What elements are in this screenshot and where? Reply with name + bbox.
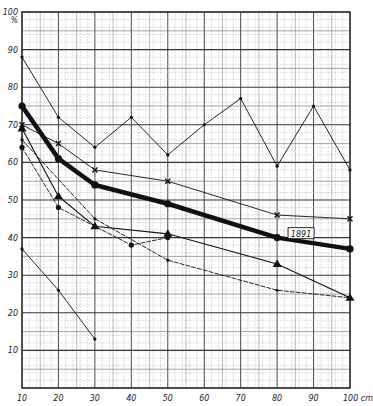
grid — [22, 12, 350, 388]
annotation-label: 1891 — [291, 230, 311, 239]
y-tick-label: 20 — [8, 309, 18, 318]
x-tick-label: 40 — [126, 394, 136, 403]
y-tick-label: 50 — [8, 196, 18, 205]
marker-dot-small — [348, 168, 351, 171]
marker-dot-small — [239, 97, 242, 100]
marker-dot-small — [57, 289, 60, 292]
annotations: 1891 — [288, 228, 314, 239]
marker-dot-small — [57, 116, 60, 119]
x-tick-label: 50 — [163, 394, 173, 403]
y-tick-label: 30 — [8, 271, 18, 280]
y-tick-label: 70 — [8, 121, 18, 130]
y-tick-label: 80 — [8, 83, 18, 92]
marker-dot-small — [348, 296, 351, 299]
x-tick-label: 90 — [308, 394, 318, 403]
x-tick-label: 100 cm — [343, 394, 373, 403]
marker-dot — [129, 243, 134, 248]
marker-dot-large — [164, 200, 171, 207]
marker-dot-small — [130, 116, 133, 119]
marker-dot-small — [20, 247, 23, 250]
marker-dot-small — [20, 138, 23, 141]
x-tick-label: 30 — [90, 394, 100, 403]
x-tick-label: 70 — [236, 394, 246, 403]
marker-dot-small — [93, 146, 96, 149]
y-tick-label: 60 — [8, 158, 18, 167]
marker-dot — [19, 145, 24, 150]
y-tick-label: 10 — [8, 346, 18, 355]
marker-dot-large — [55, 155, 62, 162]
marker-triangle — [54, 192, 63, 200]
marker-dot-small — [93, 217, 96, 220]
marker-dot — [165, 235, 170, 240]
marker-dot-small — [276, 165, 279, 168]
y-tick-label: 40 — [8, 234, 18, 243]
marker-dot-large — [91, 181, 98, 188]
x-tick-label: 80 — [272, 394, 282, 403]
marker-dot — [56, 205, 61, 210]
marker-dot-small — [203, 123, 206, 126]
marker-dot-small — [276, 289, 279, 292]
marker-dot-large — [274, 234, 281, 241]
y-tick-label: 90 — [8, 46, 18, 55]
x-tick-label: 60 — [199, 394, 209, 403]
marker-dot-small — [20, 56, 23, 59]
y-unit-label: % — [10, 16, 18, 25]
line-chart: 102030405060708090100%102030405060708090… — [0, 0, 373, 406]
marker-dot-small — [166, 153, 169, 156]
marker-dot-small — [166, 259, 169, 262]
marker-dot-large — [346, 245, 353, 252]
marker-dot-large — [18, 102, 25, 109]
x-tick-label: 10 — [17, 394, 27, 403]
x-tick-label: 20 — [53, 394, 63, 403]
marker-dot-small — [312, 104, 315, 107]
marker-dot-small — [93, 338, 96, 341]
